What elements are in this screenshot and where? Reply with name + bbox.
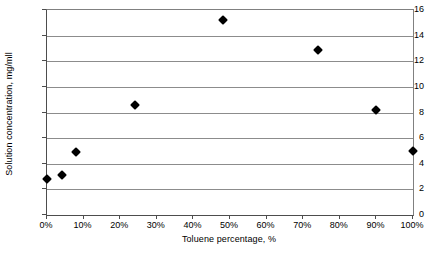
x-tick-label: 80% xyxy=(319,220,359,231)
gridline xyxy=(47,36,413,37)
x-tick-label: 70% xyxy=(282,220,322,231)
x-tick-label: 100% xyxy=(392,220,430,231)
x-axis-title: Toluene percentage, % xyxy=(46,233,412,245)
x-tick-label: 10% xyxy=(63,220,103,231)
x-tick-label: 60% xyxy=(246,220,286,231)
gridline xyxy=(47,164,413,165)
x-tick-label: 40% xyxy=(172,220,212,231)
x-tick-label: 50% xyxy=(209,220,249,231)
data-point xyxy=(130,100,140,110)
data-point xyxy=(408,146,418,156)
data-point xyxy=(57,170,67,180)
data-point xyxy=(313,45,323,55)
x-tick-label: 0% xyxy=(26,220,66,231)
data-point xyxy=(42,174,52,184)
x-tick-label: 20% xyxy=(99,220,139,231)
y-axis-title: Solution concentration, mg/mll xyxy=(1,5,17,223)
gridline xyxy=(47,138,413,139)
scatter-chart: Solution concentration, mg/mll 024681012… xyxy=(0,0,430,253)
gridline xyxy=(47,113,413,114)
gridline xyxy=(47,87,413,88)
x-tick-label: 30% xyxy=(136,220,176,231)
gridline xyxy=(47,61,413,62)
plot-area xyxy=(46,9,414,216)
data-point xyxy=(218,15,228,25)
data-point xyxy=(71,147,81,157)
gridline xyxy=(47,189,413,190)
x-tick-label: 90% xyxy=(355,220,395,231)
